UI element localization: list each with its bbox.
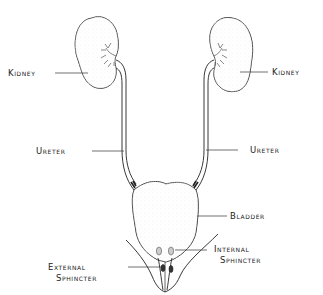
label-ureter-left: Ureter — [36, 147, 65, 156]
label-kidney-right: Kidney — [272, 68, 300, 77]
external-sphincter — [161, 265, 173, 273]
label-external-sphincter-line1: External — [48, 263, 86, 272]
label-bladder: Bladder — [230, 212, 265, 221]
label-internal-sphincter-line2: Sphincter — [220, 256, 261, 265]
right-kidney — [210, 17, 253, 91]
label-kidney-left: Kidney — [8, 69, 36, 78]
label-external-sphincter-line2: Sphincter — [56, 274, 97, 283]
left-ureter — [116, 60, 136, 190]
left-kidney — [75, 17, 118, 89]
right-ureter — [193, 60, 214, 190]
label-ureter-right: Ureter — [250, 146, 279, 155]
label-internal-sphincter-line1: Internal — [214, 245, 249, 254]
